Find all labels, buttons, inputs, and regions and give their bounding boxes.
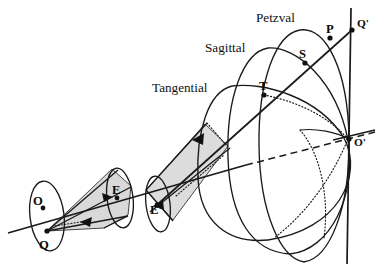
point-P <box>327 35 332 40</box>
label-point-Oprime: O' <box>354 136 366 148</box>
point-Oprime <box>346 136 351 141</box>
label-point-T: T <box>259 79 268 93</box>
label-petzval: Petzval <box>256 10 295 25</box>
label-sagittal: Sagittal <box>205 40 246 55</box>
label-point-Qprime: Q' <box>357 17 369 29</box>
label-point-E: E <box>112 183 120 197</box>
point-Q <box>44 228 49 233</box>
field-curvature-diagram: Petzval Sagittal Tangential O Q E E' T S… <box>0 0 388 271</box>
point-S <box>302 60 307 65</box>
label-point-S: S <box>299 47 306 61</box>
label-point-Eprime: E' <box>150 203 162 217</box>
label-tangential: Tangential <box>152 80 208 95</box>
point-Qprime <box>349 27 354 32</box>
label-point-P: P <box>326 22 334 36</box>
label-point-O: O <box>33 194 43 208</box>
label-point-Q: Q <box>39 238 49 252</box>
point-T <box>261 92 266 97</box>
